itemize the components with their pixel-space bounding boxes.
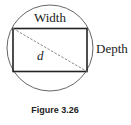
diagonal-line: [13, 29, 87, 72]
figure-caption: Figure 3.26: [31, 105, 79, 115]
figure-diagram: Width Depth d Figure 3.26: [0, 0, 131, 125]
depth-label: Depth: [96, 41, 128, 56]
diagonal-label: d: [37, 48, 44, 63]
width-label: Width: [34, 10, 66, 25]
